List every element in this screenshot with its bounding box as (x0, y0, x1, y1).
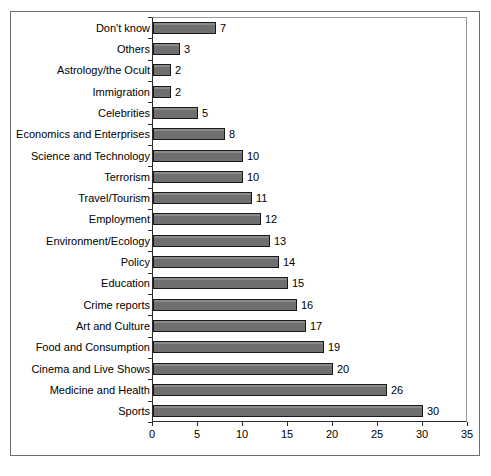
bar-value-label: 14 (283, 256, 295, 268)
bar-rows: Don't know7Others3Astrology/the Ocult2Im… (0, 17, 491, 422)
bar-row: Environment/Ecology13 (0, 230, 491, 251)
bar-group: 17 (153, 320, 322, 332)
bar-row: Education15 (0, 273, 491, 294)
category-label: Employment (0, 213, 150, 225)
bar-row: Travel/Tourism11 (0, 188, 491, 209)
bar (153, 341, 324, 353)
bar-group: 10 (153, 150, 259, 162)
bar-group: 2 (153, 64, 181, 76)
y-axis-tick (148, 273, 152, 274)
category-label: Don't know (0, 22, 150, 34)
y-axis-tick (148, 188, 152, 189)
bar-row: Don't know7 (0, 17, 491, 38)
bar (153, 363, 333, 375)
y-axis-tick (148, 358, 152, 359)
category-label: Crime reports (0, 299, 150, 311)
bar (153, 235, 270, 247)
category-label: Education (0, 277, 150, 289)
bar-row: Science and Technology10 (0, 145, 491, 166)
y-axis-tick (148, 294, 152, 295)
bar (153, 213, 261, 225)
bar-value-label: 20 (337, 363, 349, 375)
category-label: Medicine and Health (0, 384, 150, 396)
bar (153, 277, 288, 289)
y-axis-tick (148, 422, 152, 423)
bar (153, 86, 171, 98)
bar-value-label: 13 (274, 235, 286, 247)
y-axis-tick (148, 251, 152, 252)
bar-value-label: 2 (175, 86, 181, 98)
bar-row: Astrology/the Ocult2 (0, 60, 491, 81)
y-axis-tick (148, 209, 152, 210)
y-axis-tick (148, 145, 152, 146)
bar (153, 299, 297, 311)
category-label: Sports (0, 405, 150, 417)
category-label: Science and Technology (0, 150, 150, 162)
bar (153, 64, 171, 76)
bar-row: Immigration2 (0, 81, 491, 102)
bar-group: 30 (153, 405, 439, 417)
bar-value-label: 15 (292, 277, 304, 289)
y-axis-tick (148, 124, 152, 125)
bar-row: Economics and Enterprises8 (0, 124, 491, 145)
bar-value-label: 5 (202, 107, 208, 119)
bar-group: 10 (153, 171, 259, 183)
bar-value-label: 3 (184, 43, 190, 55)
bar-row: Employment12 (0, 209, 491, 230)
bar (153, 43, 180, 55)
y-axis-tick (148, 17, 152, 18)
category-label: Travel/Tourism (0, 192, 150, 204)
bar-value-label: 10 (247, 150, 259, 162)
y-axis-tick (148, 401, 152, 402)
bar-group: 2 (153, 86, 181, 98)
bar (153, 171, 243, 183)
bar-row: Policy14 (0, 251, 491, 272)
bar-value-label: 16 (301, 299, 313, 311)
bar-row: Medicine and Health26 (0, 379, 491, 400)
category-label: Policy (0, 256, 150, 268)
bar-value-label: 8 (229, 128, 235, 140)
y-axis-tick (148, 337, 152, 338)
bar-row: Terrorism10 (0, 166, 491, 187)
bar-group: 16 (153, 299, 313, 311)
bar-row: Others3 (0, 38, 491, 59)
bar (153, 320, 306, 332)
bar (153, 150, 243, 162)
bar-group: 14 (153, 256, 295, 268)
bar-value-label: 26 (391, 384, 403, 396)
chart-figure: Don't know7Others3Astrology/the Ocult2Im… (0, 0, 491, 476)
bar-group: 12 (153, 213, 277, 225)
bar-row: Celebrities5 (0, 102, 491, 123)
category-label: Art and Culture (0, 320, 150, 332)
bar-row: Sports30 (0, 401, 491, 422)
bar-group: 15 (153, 277, 304, 289)
category-label: Immigration (0, 86, 150, 98)
bar-value-label: 7 (220, 22, 226, 34)
y-axis-tick (148, 166, 152, 167)
bar-row: Cinema and Live Shows20 (0, 358, 491, 379)
bar-group: 3 (153, 43, 190, 55)
category-label: Food and Consumption (0, 341, 150, 353)
bar (153, 22, 216, 34)
bar (153, 128, 225, 140)
category-label: Cinema and Live Shows (0, 363, 150, 375)
category-label: Economics and Enterprises (0, 128, 150, 140)
y-axis-tick (148, 81, 152, 82)
bar (153, 405, 423, 417)
bar-value-label: 30 (427, 405, 439, 417)
bar-group: 26 (153, 384, 403, 396)
category-label: Others (0, 43, 150, 55)
bar (153, 192, 252, 204)
bar-value-label: 2 (175, 64, 181, 76)
y-axis-tick (148, 315, 152, 316)
bar-group: 20 (153, 363, 349, 375)
y-axis-tick (148, 379, 152, 380)
category-label: Terrorism (0, 171, 150, 183)
bar-value-label: 19 (328, 341, 340, 353)
bar-group: 8 (153, 128, 235, 140)
bar-group: 7 (153, 22, 226, 34)
bar-value-label: 10 (247, 171, 259, 183)
bar-group: 19 (153, 341, 340, 353)
category-label: Astrology/the Ocult (0, 64, 150, 76)
category-label: Celebrities (0, 107, 150, 119)
